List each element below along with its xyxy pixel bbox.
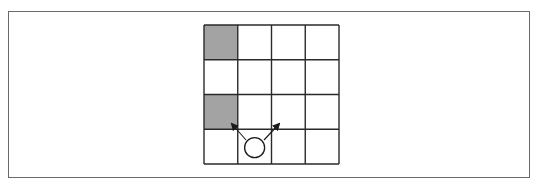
grid-cell (272, 60, 306, 95)
grid-cell (204, 60, 238, 95)
grid-cell (204, 129, 238, 164)
grid-cell (238, 25, 272, 60)
grid-cell-shaded (204, 25, 238, 60)
grid-cell (272, 25, 306, 60)
grid-cell (305, 60, 339, 95)
grid-cell (272, 95, 306, 130)
grid-cell (305, 95, 339, 130)
grid-cell (238, 95, 272, 130)
grid-cell (272, 129, 306, 164)
grid-world-board (0, 0, 539, 188)
grid-cell (305, 25, 339, 60)
agent-circle-icon (245, 138, 265, 158)
grid-cell (305, 129, 339, 164)
grid-cell (238, 60, 272, 95)
